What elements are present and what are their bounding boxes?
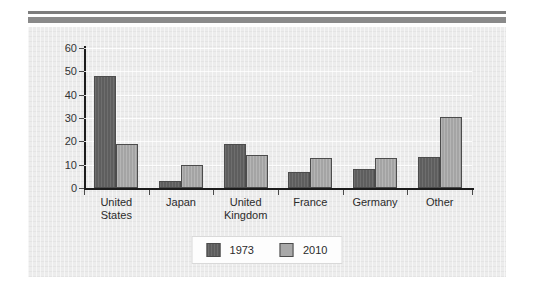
header-rule-thick (28, 17, 506, 23)
y-axis-tick-mark (79, 118, 84, 119)
legend-entry-2010: 2010 (280, 243, 327, 257)
bar-2010-japan[interactable] (181, 165, 203, 188)
legend-entry-1973: 1973 (207, 243, 254, 257)
gridline (84, 48, 472, 49)
x-axis-tick-mark (278, 190, 279, 195)
y-axis-tick-mark (79, 188, 84, 189)
y-axis-tick-mark (79, 165, 84, 166)
x-axis-tick-mark (343, 190, 344, 195)
gridline (84, 165, 472, 166)
legend-swatch-1973 (207, 243, 221, 257)
chart-legend: 1973 2010 (192, 236, 343, 264)
legend-swatch-2010 (280, 243, 294, 257)
header-rule-thin (28, 11, 506, 14)
bar-1973-japan[interactable] (159, 181, 181, 188)
bar-1973-united-states[interactable] (94, 76, 116, 188)
bar-1973-other[interactable] (418, 157, 440, 189)
bar-2010-france[interactable] (310, 158, 332, 188)
y-axis-tick-label: 60 (65, 43, 77, 54)
gridline (84, 95, 472, 96)
x-axis-tick-mark (213, 190, 214, 195)
bar-2010-united-states[interactable] (116, 144, 138, 188)
bar-1973-united-kingdom[interactable] (224, 144, 246, 188)
gridline (84, 141, 472, 142)
x-axis-tick-mark (149, 190, 150, 195)
x-axis-category-label: France (293, 196, 327, 209)
chart-figure: 0102030405060 United StatesJapanUnited K… (0, 0, 534, 302)
gridline (84, 71, 472, 72)
x-axis-tick-mark (84, 190, 85, 195)
y-axis-tick-label: 40 (65, 89, 77, 100)
y-axis-tick-label: 10 (65, 159, 77, 170)
x-axis-category-label: United States (100, 196, 132, 222)
bar-1973-france[interactable] (288, 172, 310, 188)
y-axis-tick-label: 30 (65, 113, 77, 124)
x-axis-tick-mark (472, 190, 473, 195)
y-axis-tick-mark (79, 141, 84, 142)
y-axis-tick-label: 0 (71, 183, 77, 194)
x-axis-category-label: United Kingdom (224, 196, 267, 222)
legend-label-2010: 2010 (303, 245, 327, 256)
y-axis-tick-label: 50 (65, 66, 77, 77)
bar-2010-other[interactable] (440, 117, 462, 188)
legend-label-1973: 1973 (230, 245, 254, 256)
x-axis-category-label: Japan (166, 196, 196, 209)
bar-2010-united-kingdom[interactable] (246, 155, 268, 188)
y-axis-tick-mark (79, 71, 84, 72)
x-axis-tick-mark (407, 190, 408, 195)
plot-area: 0102030405060 (84, 48, 472, 188)
x-axis-category-label: Germany (352, 196, 397, 209)
gridline (84, 118, 472, 119)
bar-2010-germany[interactable] (375, 158, 397, 188)
y-axis-tick-mark (79, 95, 84, 96)
x-axis-category-label: Other (426, 196, 454, 209)
x-axis-line (84, 188, 474, 190)
y-axis-tick-label: 20 (65, 136, 77, 147)
bar-1973-germany[interactable] (353, 169, 375, 188)
y-axis-tick-mark (79, 48, 84, 49)
